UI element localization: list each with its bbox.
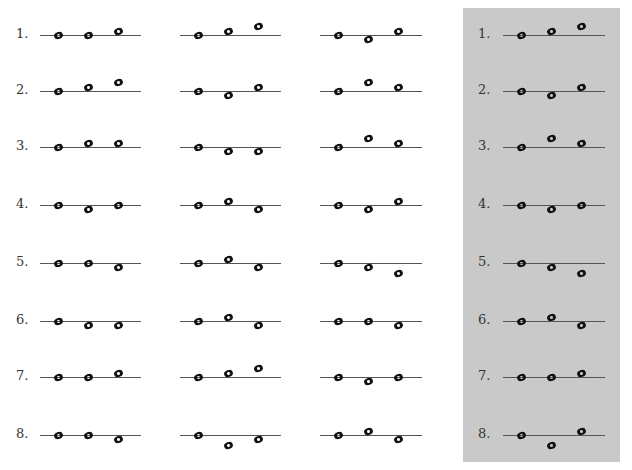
whole-note-icon	[193, 431, 204, 441]
whole-note-icon	[53, 201, 64, 211]
whole-note-icon	[253, 321, 264, 331]
whole-note-icon	[113, 78, 124, 88]
whole-note-icon	[393, 269, 404, 279]
whole-note-icon	[193, 201, 204, 211]
col1-row-label: 8.	[16, 427, 28, 441]
whole-note-icon	[333, 431, 344, 441]
whole-note-icon	[333, 201, 344, 211]
whole-note-icon	[333, 317, 344, 327]
whole-note-icon	[363, 263, 374, 273]
whole-note-icon	[53, 317, 64, 327]
whole-note-icon	[193, 373, 204, 383]
whole-note-icon	[83, 373, 94, 383]
whole-note-icon	[253, 263, 264, 273]
whole-note-icon	[83, 205, 94, 215]
whole-note-icon	[223, 91, 234, 101]
whole-note-icon	[83, 321, 94, 331]
whole-note-icon	[223, 441, 234, 451]
whole-note-icon	[193, 317, 204, 327]
whole-note-icon	[393, 435, 404, 445]
whole-note-icon	[193, 259, 204, 269]
answer-row-label: 1.	[478, 27, 490, 41]
answer-row-label: 6.	[478, 313, 490, 327]
answer-panel	[463, 8, 620, 462]
whole-note-icon	[83, 31, 94, 41]
answer-row-label: 8.	[478, 427, 490, 441]
whole-note-icon	[53, 143, 64, 153]
whole-note-icon	[53, 31, 64, 41]
col1-row-label: 3.	[16, 139, 28, 153]
col1-row-label: 5.	[16, 255, 28, 269]
whole-note-icon	[53, 431, 64, 441]
col1-row-label: 4.	[16, 197, 28, 211]
whole-note-icon	[253, 435, 264, 445]
whole-note-icon	[113, 201, 124, 211]
whole-note-icon	[113, 321, 124, 331]
col1-row-label: 2.	[16, 83, 28, 97]
answer-row-label: 5.	[478, 255, 490, 269]
whole-note-icon	[363, 35, 374, 45]
whole-note-icon	[363, 78, 374, 88]
whole-note-icon	[53, 259, 64, 269]
whole-note-icon	[53, 87, 64, 97]
whole-note-icon	[253, 22, 264, 32]
whole-note-icon	[333, 373, 344, 383]
whole-note-icon	[223, 147, 234, 157]
whole-note-icon	[113, 435, 124, 445]
whole-note-icon	[253, 205, 264, 215]
whole-note-icon	[363, 205, 374, 215]
whole-note-icon	[363, 134, 374, 144]
whole-note-icon	[333, 259, 344, 269]
whole-note-icon	[363, 377, 374, 387]
col1-row-label: 6.	[16, 313, 28, 327]
whole-note-icon	[193, 87, 204, 97]
answer-row-label: 3.	[478, 139, 490, 153]
whole-note-icon	[83, 431, 94, 441]
whole-note-icon	[193, 31, 204, 41]
whole-note-icon	[253, 147, 264, 157]
whole-note-icon	[393, 321, 404, 331]
whole-note-icon	[333, 87, 344, 97]
answer-row-label: 7.	[478, 369, 490, 383]
whole-note-icon	[393, 373, 404, 383]
whole-note-icon	[193, 143, 204, 153]
answer-row-label: 2.	[478, 83, 490, 97]
whole-note-icon	[83, 259, 94, 269]
whole-note-icon	[363, 317, 374, 327]
col1-row-label: 1.	[16, 27, 28, 41]
whole-note-icon	[253, 364, 264, 374]
answer-row-label: 4.	[478, 197, 490, 211]
col1-row-label: 7.	[16, 369, 28, 383]
whole-note-icon	[333, 31, 344, 41]
whole-note-icon	[333, 143, 344, 153]
whole-note-icon	[113, 263, 124, 273]
whole-note-icon	[53, 373, 64, 383]
